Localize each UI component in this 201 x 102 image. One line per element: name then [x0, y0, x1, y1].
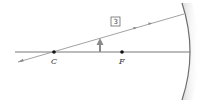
ray-arrow-icon — [18, 59, 24, 62]
ray-3 — [18, 14, 184, 62]
label-c: C — [51, 57, 57, 66]
focal-point — [120, 50, 124, 54]
ray-diagram: C F 3 — [0, 0, 201, 102]
ray-number: 3 — [114, 18, 118, 26]
center-of-curvature-point — [52, 50, 56, 54]
label-f: F — [118, 57, 125, 66]
